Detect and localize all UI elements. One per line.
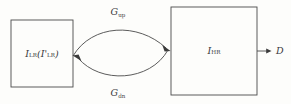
gdn-label-subscript: dn	[118, 93, 126, 99]
diagram-svg: ILR(I'LR) IHR Gup Gdn D	[0, 0, 291, 104]
upsample-generator-edge	[73, 30, 166, 56]
lr-label-close-paren: )	[54, 48, 59, 59]
discriminator-output-label: D	[275, 45, 284, 56]
output-arrowhead-icon	[266, 49, 271, 54]
downsample-edge-label: Gdn	[111, 87, 126, 99]
upsample-arrowhead-icon	[162, 45, 170, 52]
diagram-canvas: ILR(I'LR) IHR Gup Gdn D	[0, 0, 291, 104]
downsample-generator-edge	[78, 50, 168, 76]
gup-label-subscript: up	[118, 12, 126, 19]
upsample-edge-label: Gup	[111, 6, 126, 19]
hr-label-subscript: HR	[211, 50, 221, 56]
downsample-arrowhead-icon	[73, 55, 82, 62]
lr-label-prime-symbol: I'	[40, 48, 47, 59]
